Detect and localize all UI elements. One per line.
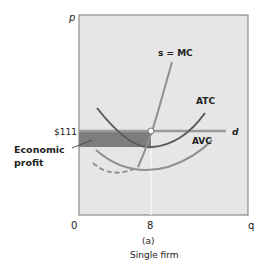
atc-label: ATC [196,96,215,106]
profit-label-line2: profit [14,157,44,168]
equilibrium-point [148,128,154,134]
price-tick-label: $111 [54,127,77,137]
chart: p q 0 8 $111 s = MC ATC AVC d Economic p… [0,0,261,271]
profit-label-line1: Economic [14,144,65,155]
chart-caption: Single firm [130,250,179,260]
mc-label: s = MC [158,48,193,58]
avc-label: AVC [192,136,212,146]
economic-profit-area [79,131,151,147]
x-axis-label: q [248,220,254,231]
panel-label: (a) [142,236,155,246]
y-axis-label: p [68,12,75,23]
origin-label: 0 [71,220,77,231]
q-tick-label: 8 [147,220,153,231]
plot-area [79,15,248,215]
demand-label: d [232,127,239,137]
